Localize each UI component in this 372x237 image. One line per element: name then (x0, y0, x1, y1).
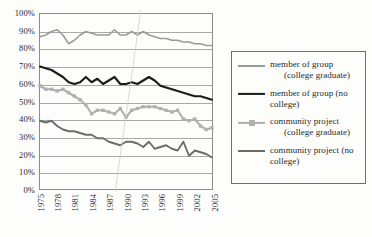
y-axis-tick-label: 10% (19, 167, 35, 177)
y-axis-tick-label: 80% (19, 43, 35, 53)
legend-item-label: member of group(college graduate) (270, 59, 350, 81)
legend-line-swatch (238, 89, 265, 100)
series-marker-3 (78, 98, 81, 101)
y-axis: 100%90%80%70%60%50%40%30%20%10%0% (0, 13, 35, 190)
y-axis-tick-label: 90% (19, 26, 35, 36)
legend-item-3[interactable]: community project(college graduate) (238, 116, 360, 138)
y-axis-tick-label: 50% (19, 97, 35, 107)
y-axis-tick-label: 60% (19, 79, 35, 89)
series-marker-3 (136, 107, 139, 110)
legend-line-swatch (238, 146, 265, 157)
legend-item-2[interactable]: member of group (nocollege) (238, 88, 360, 110)
x-axis-tick-label: 1984 (88, 194, 98, 211)
x-axis-tick-label: 1990 (123, 194, 133, 211)
series-marker-3 (84, 103, 87, 106)
y-axis-tick-label: 40% (19, 114, 35, 124)
series-marker-3 (90, 112, 93, 115)
x-axis-tick-label: 1987 (105, 194, 115, 211)
series-marker-3 (142, 105, 145, 108)
series-marker-3 (56, 89, 59, 92)
x-axis-tick-label: 1981 (70, 194, 80, 211)
series-marker-3 (50, 88, 53, 91)
series-marker-3 (205, 128, 208, 131)
series-marker-3 (101, 109, 104, 112)
legend-item-4[interactable]: community project (nocollege) (238, 145, 360, 167)
legend-item-label: community project(college graduate) (270, 116, 350, 138)
y-axis-tick-label: 70% (19, 61, 35, 71)
series-marker-3 (124, 116, 127, 119)
x-axis-tick-label: 2005 (210, 194, 220, 211)
series-marker-3 (170, 110, 173, 113)
series-marker-3 (38, 84, 41, 87)
x-axis-tick-label: 1993 (140, 194, 150, 211)
series-marker-3 (153, 105, 156, 108)
chart-legend: member of group(college graduate)member … (231, 51, 366, 184)
y-axis-tick-label: 20% (19, 150, 35, 160)
series-lines (40, 14, 212, 189)
legend-item-label: community project (nocollege) (270, 145, 354, 167)
x-axis-tick-label: 1999 (175, 194, 185, 211)
x-axis-tick-label: 1978 (53, 194, 63, 211)
series-marker-3 (113, 112, 116, 115)
x-axis-tick-label: 1996 (157, 194, 167, 211)
series-marker-3 (44, 88, 47, 91)
series-marker-3 (67, 91, 70, 94)
series-marker-3 (130, 109, 133, 112)
y-axis-tick-label: 0% (23, 185, 35, 195)
series-marker-3 (193, 117, 196, 120)
series-marker-3 (182, 117, 185, 120)
series-marker-3 (96, 109, 99, 112)
y-axis-tick-label: 30% (19, 132, 35, 142)
plot-area (39, 13, 213, 190)
legend-line-marker-swatch (238, 117, 265, 128)
y-axis-tick-label: 100% (15, 8, 35, 18)
legend-item-label: member of group (nocollege) (270, 88, 348, 110)
series-marker-3 (73, 95, 76, 98)
x-axis-tick-label: 1975 (36, 194, 46, 211)
x-axis: 1975197819811984198719901993199619992002… (39, 192, 213, 237)
series-marker-3 (164, 109, 167, 112)
series-marker-3 (176, 109, 179, 112)
series-line-4 (40, 121, 212, 158)
series-line-2 (40, 67, 212, 100)
series-marker-3 (61, 88, 64, 91)
series-marker-3 (119, 107, 122, 110)
series-marker-3 (147, 105, 150, 108)
series-line-3 (40, 86, 212, 130)
series-marker-3 (187, 119, 190, 122)
series-marker-3 (159, 107, 162, 110)
series-marker-3 (107, 110, 110, 113)
series-marker-3 (199, 124, 202, 127)
legend-item-1[interactable]: member of group(college graduate) (238, 59, 360, 81)
series-line-1 (40, 30, 212, 46)
series-marker-3 (210, 126, 213, 129)
line-chart-figure: 100%90%80%70%60%50%40%30%20%10%0% 197519… (0, 0, 372, 237)
x-axis-tick-label: 2002 (192, 194, 202, 211)
legend-line-swatch (238, 60, 265, 71)
